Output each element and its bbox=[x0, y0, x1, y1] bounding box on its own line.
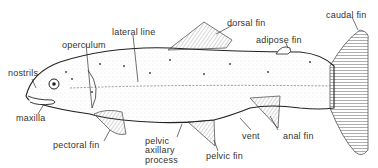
label-lateral-line: lateral line bbox=[112, 27, 155, 37]
label-adipose-fin: adipose fin bbox=[256, 35, 302, 45]
pelvic-fin-shape bbox=[188, 120, 215, 146]
label-dorsal-fin: dorsal fin bbox=[227, 18, 266, 28]
label-maxilla: maxilla bbox=[16, 113, 45, 123]
label-anal-fin: anal fin bbox=[283, 131, 314, 141]
label-pectoral-fin: pectoral fin bbox=[53, 140, 99, 150]
label-vent: vent bbox=[242, 131, 260, 141]
label-axillary: axillary bbox=[145, 145, 175, 155]
pectoral-fin-shape bbox=[94, 110, 126, 134]
label-pelvic-fin: pelvic fin bbox=[206, 151, 243, 161]
label-caudal-fin: caudal fin bbox=[326, 10, 367, 20]
label-nostrils: nostrils bbox=[8, 68, 38, 78]
label-operculum: operculum bbox=[62, 40, 106, 50]
fish-body bbox=[26, 47, 334, 123]
label-process: process bbox=[145, 155, 178, 165]
dorsal-fin-shape bbox=[168, 22, 232, 50]
caudal-fin-shape bbox=[330, 30, 368, 155]
